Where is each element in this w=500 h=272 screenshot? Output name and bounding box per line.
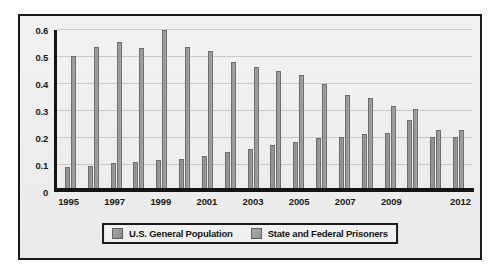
legend-item-1[interactable]: State and Federal Prisoners (251, 228, 388, 239)
bar-series-0 (293, 142, 298, 188)
x-axis-tick-label: 2005 (289, 196, 310, 207)
bar-group (59, 30, 82, 188)
bar-series-1 (436, 130, 441, 188)
chart-screenshot: 00.10.20.30.40.50.6 19951997199920012003… (0, 0, 500, 272)
bar-group (333, 30, 356, 188)
bar-group (310, 30, 333, 188)
plot-area: 00.10.20.30.40.50.6 (54, 30, 472, 192)
bar-group (424, 30, 447, 188)
bar-group (105, 30, 128, 188)
y-axis-tick-label: 0.4 (35, 79, 48, 90)
x-axis-tick-label: 2001 (196, 196, 217, 207)
bar-group (264, 30, 287, 188)
bar-group (242, 30, 265, 188)
bar-series-1 (254, 67, 259, 188)
bar-series-1 (208, 51, 213, 188)
chart-legend: U.S. General Population State and Federa… (102, 223, 398, 244)
chart-frame: 00.10.20.30.40.50.6 19951997199920012003… (18, 14, 482, 260)
y-axis-tick-label: 0.1 (35, 160, 48, 171)
bar-group (356, 30, 379, 188)
bar-series-0 (430, 137, 435, 188)
x-axis-tick-label: 1995 (58, 196, 79, 207)
bar-series-1 (71, 56, 76, 188)
y-axis-tick-label: 0 (43, 187, 48, 198)
bar-series-1 (162, 30, 167, 188)
bar-series-1 (459, 130, 464, 188)
bar-series-1 (345, 95, 350, 188)
bar-series-0 (202, 156, 207, 188)
bar-group (196, 30, 219, 188)
bar-group (150, 30, 173, 188)
bar-group (127, 30, 150, 188)
bar-series-1 (231, 62, 236, 188)
legend-label-0: U.S. General Population (129, 228, 233, 239)
bar-groups (57, 30, 472, 188)
y-axis-tick-label: 0.6 (35, 25, 48, 36)
bar-series-0 (407, 120, 412, 188)
bar-series-1 (117, 42, 122, 188)
bar-series-1 (185, 47, 190, 188)
y-axis-tick-label: 0.3 (35, 106, 48, 117)
bar-series-1 (391, 106, 396, 188)
bar-series-0 (156, 160, 161, 188)
bar-series-1 (299, 75, 304, 188)
bar-group (287, 30, 310, 188)
series-0-swatch-icon (112, 228, 123, 239)
bar-series-0 (316, 138, 321, 188)
legend-label-1: State and Federal Prisoners (268, 228, 388, 239)
bar-series-0 (65, 167, 70, 188)
bar-series-1 (368, 98, 373, 188)
x-axis-tick-label: 1999 (150, 196, 171, 207)
bar-group (401, 30, 424, 188)
bar-group (173, 30, 196, 188)
x-axis-tick-label: 2012 (450, 196, 471, 207)
bar-series-0 (111, 163, 116, 188)
bar-series-0 (225, 152, 230, 188)
x-axis-tick-label: 2009 (381, 196, 402, 207)
bar-group (82, 30, 105, 188)
y-axis-tick-label: 0.5 (35, 52, 48, 63)
bar-series-1 (413, 109, 418, 188)
x-axis-tick-labels: 199519971999200120032005200720092012 (57, 196, 472, 210)
bar-series-0 (385, 133, 390, 188)
bar-series-0 (88, 166, 93, 188)
series-1-swatch-icon (251, 228, 262, 239)
x-axis-tick-label: 2007 (335, 196, 356, 207)
bar-group (447, 30, 470, 188)
legend-item-0[interactable]: U.S. General Population (112, 228, 233, 239)
y-axis-tick-labels: 00.10.20.30.40.50.6 (21, 30, 51, 192)
bar-series-0 (453, 137, 458, 188)
bar-series-1 (322, 84, 327, 188)
bar-group (379, 30, 402, 188)
bar-series-1 (139, 48, 144, 188)
x-axis-tick-label: 1997 (104, 196, 125, 207)
bar-series-1 (94, 47, 99, 188)
bar-series-0 (248, 149, 253, 189)
bar-group (219, 30, 242, 188)
bar-series-0 (339, 137, 344, 188)
bar-series-0 (362, 134, 367, 188)
bar-series-0 (179, 159, 184, 188)
bar-series-0 (133, 162, 138, 188)
x-axis-line (54, 188, 474, 192)
y-axis-tick-label: 0.2 (35, 133, 48, 144)
x-axis-tick-label: 2003 (243, 196, 264, 207)
bar-series-1 (276, 71, 281, 188)
bar-series-0 (270, 145, 275, 188)
